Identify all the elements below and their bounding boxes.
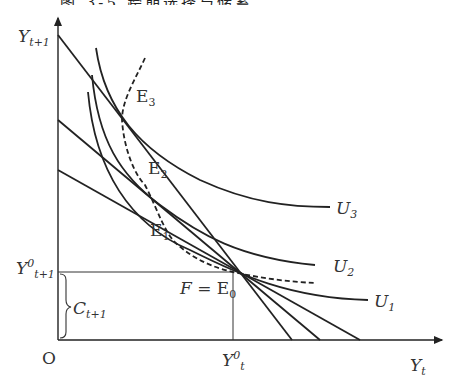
- e2-label: E2: [148, 160, 167, 180]
- indifference-curve-u3: [96, 48, 330, 207]
- e3-label: E3: [136, 88, 155, 108]
- indifference-curve-u1: [88, 92, 368, 300]
- e1-label: E1: [150, 222, 169, 242]
- u3-label: U3: [336, 200, 357, 220]
- x-axis-label: Yt: [410, 357, 426, 377]
- u2-label: U2: [333, 258, 354, 278]
- c-brace: [60, 274, 71, 338]
- u1-label: U1: [374, 293, 395, 313]
- y0-label: Y0t+1: [16, 258, 55, 280]
- diagram-canvas: [0, 0, 458, 388]
- c-brace-label: Ct+1: [73, 300, 107, 320]
- x0-label: Y0t: [222, 350, 245, 372]
- f-e0-label: F = E0: [180, 280, 236, 300]
- origin-label: O: [42, 350, 56, 367]
- y-axis-label: Yt+1: [18, 28, 50, 48]
